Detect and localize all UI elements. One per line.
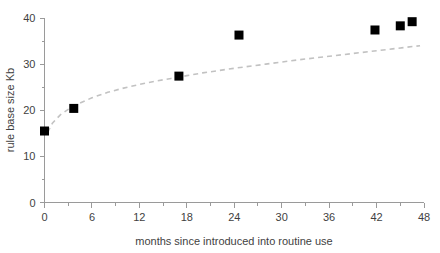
x-axis-tick-labels: 0612182430364248 bbox=[41, 211, 430, 223]
x-tick-label: 0 bbox=[41, 211, 47, 223]
x-tick-label: 24 bbox=[228, 211, 240, 223]
data-point-marker bbox=[396, 21, 405, 30]
data-point-markers bbox=[40, 17, 417, 135]
y-tick-label: 10 bbox=[23, 150, 35, 162]
data-point-marker bbox=[234, 31, 243, 40]
trend-line bbox=[48, 46, 420, 133]
data-point-marker bbox=[174, 72, 183, 81]
x-tick-label: 42 bbox=[370, 211, 382, 223]
x-tick-label: 36 bbox=[323, 211, 335, 223]
scatter-plot: 010203040 0612182430364248 months since … bbox=[0, 0, 440, 253]
y-axis-title: rule base size Kb bbox=[4, 68, 16, 152]
y-tick-label: 20 bbox=[23, 104, 35, 116]
y-tick-label: 30 bbox=[23, 58, 35, 70]
data-point-marker bbox=[40, 127, 49, 136]
data-point-marker bbox=[370, 25, 379, 34]
x-tick-label: 48 bbox=[418, 211, 430, 223]
y-tick-label: 40 bbox=[23, 12, 35, 24]
chart-container: 010203040 0612182430364248 months since … bbox=[0, 0, 440, 253]
x-tick-label: 30 bbox=[276, 211, 288, 223]
y-axis-tick-labels: 010203040 bbox=[23, 12, 35, 209]
x-axis-title: months since introduced into routine use bbox=[135, 235, 333, 247]
x-tick-label: 12 bbox=[133, 211, 145, 223]
y-axis-major-ticks bbox=[40, 18, 45, 203]
x-tick-label: 6 bbox=[89, 211, 95, 223]
x-tick-label: 18 bbox=[181, 211, 193, 223]
data-point-marker bbox=[69, 104, 78, 113]
y-tick-label: 0 bbox=[29, 197, 35, 209]
data-point-marker bbox=[408, 17, 417, 26]
x-axis-major-ticks bbox=[45, 203, 425, 208]
